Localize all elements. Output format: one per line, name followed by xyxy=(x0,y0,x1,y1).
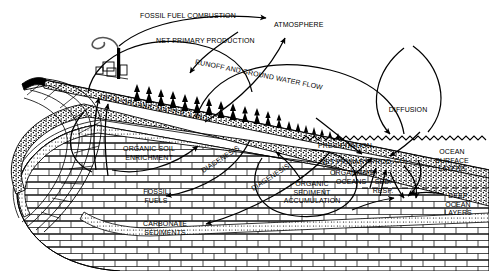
label-co2: CO2 xyxy=(386,148,408,175)
label-diffusion: DIFFUSION xyxy=(382,106,434,115)
label-sed-resp: SED. RESP. xyxy=(366,178,400,195)
label-ocean-surface-layers: OCEAN SURFACE LAYERS xyxy=(428,148,476,174)
label-atmosphere: ATMOSPHERE xyxy=(274,21,324,30)
label-organisms: ORGANISMS xyxy=(330,169,374,178)
arc-diffusion-right xyxy=(413,46,441,132)
smoke-plume xyxy=(92,37,118,48)
co2-subscript: 2 xyxy=(405,159,408,165)
label-organic-sediment-accumulation: ORGANIC SEDIMENT ACCUMULATION xyxy=(274,180,350,206)
label-organic-soil-enrichment: ORGANIC SOIL ENRICHMENT xyxy=(114,145,184,162)
factory-building-2 xyxy=(107,68,116,76)
label-carbonate-sediments: CARBONATE SEDIMENTS xyxy=(128,220,202,237)
label-precipitation: PRECIPITATION xyxy=(318,142,372,151)
label-fossil-fuel-combustion: FOSSIL FUEL COMBUSTION xyxy=(140,12,236,21)
label-net-primary-production: NET PRIMARY PRODUCTION xyxy=(156,37,255,46)
co2-text: CO xyxy=(394,157,405,164)
label-deep-ocean-layers: DEEP OCEAN LAYERS xyxy=(436,192,480,218)
carbon-cycle-diagram: FOSSIL FUEL COMBUSTION ATMOSPHERE NET PR… xyxy=(0,0,489,271)
label-fossil-fuels: FOSSIL FUELS xyxy=(134,188,178,205)
label-net-primary-prod-ocean: NET PRIMARY PROD. xyxy=(320,158,393,167)
factory-building-4 xyxy=(120,65,127,75)
